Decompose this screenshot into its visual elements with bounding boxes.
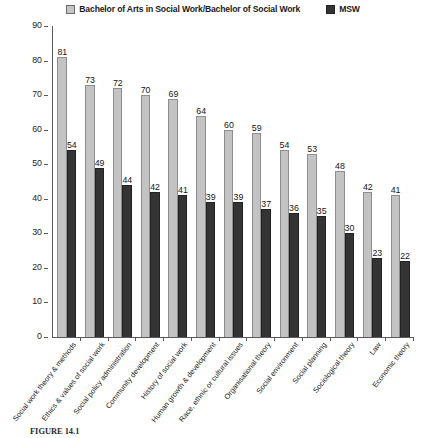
y-axis-tick-label: 90 (32, 20, 42, 31)
bar-msw: 49 (95, 168, 105, 337)
y-axis-tick-mark (44, 199, 48, 200)
bar-bsw: 70 (141, 95, 151, 337)
bar-bsw: 42 (363, 192, 373, 337)
y-axis-tick: 80 (4, 61, 48, 62)
legend-entry-bsw: Bachelor of Arts in Social Work/Bachelor… (66, 4, 300, 14)
y-axis-tick-label: 10 (32, 296, 42, 307)
y-axis-tick: 0 (4, 337, 48, 338)
y-axis-tick-mark (44, 130, 48, 131)
figure-container: Bachelor of Arts in Social Work/Bachelor… (0, 0, 426, 438)
bar-bsw: 73 (85, 85, 95, 337)
bar-series-container: 8154734972447042694164396039593754365335… (53, 26, 414, 337)
y-axis-tick-label: 20 (32, 262, 42, 273)
bar-msw: 39 (206, 202, 216, 337)
bar-value-label: 35 (317, 206, 327, 216)
plot-area: 9080706050403020100 81547349724470426941… (52, 26, 414, 337)
y-axis-tick-mark (44, 302, 48, 303)
bar-msw: 30 (345, 233, 355, 337)
bar-value-label: 69 (168, 89, 178, 99)
chart-legend: Bachelor of Arts in Social Work/Bachelor… (0, 2, 426, 16)
y-axis-tick-mark (44, 26, 48, 27)
bar-value-label: 64 (196, 106, 206, 116)
bar-value-label: 41 (178, 185, 188, 195)
bar-value-label: 39 (234, 192, 244, 202)
bar-msw: 42 (150, 192, 160, 337)
bar-value-label: 49 (95, 158, 105, 168)
bar-bsw: 64 (196, 116, 206, 337)
bar-value-label: 42 (150, 182, 160, 192)
bar-bsw: 54 (280, 150, 290, 337)
bar-value-label: 54 (280, 140, 290, 150)
bar-msw: 54 (67, 150, 77, 337)
y-axis-tick: 10 (4, 302, 48, 303)
bar-bsw: 59 (252, 133, 262, 337)
bar-msw: 23 (372, 258, 382, 337)
y-axis-tick-label: 70 (32, 89, 42, 100)
bar-group: 7042 (136, 26, 164, 337)
x-axis-category-label: Law (369, 341, 384, 357)
bar-group: 5436 (275, 26, 303, 337)
bar-bsw: 48 (335, 171, 345, 337)
bar-bsw: 60 (224, 130, 234, 337)
legend-swatch-msw-icon (326, 5, 335, 14)
y-axis-tick-mark (44, 268, 48, 269)
bar-value-label: 37 (261, 199, 271, 209)
bar-msw: 35 (317, 216, 327, 337)
bar-group: 6941 (164, 26, 192, 337)
legend-label-bsw: Bachelor of Arts in Social Work/Bachelor… (79, 4, 300, 14)
y-axis-tick-mark (44, 95, 48, 96)
bar-msw: 37 (261, 209, 271, 337)
bar-value-label: 44 (122, 175, 132, 185)
bar-group: 7244 (109, 26, 137, 337)
y-axis-tick-label: 60 (32, 124, 42, 135)
y-axis-tick-mark (44, 233, 48, 234)
y-axis-tick-mark (44, 337, 48, 338)
bar-group: 8154 (53, 26, 81, 337)
bar-group: 6039 (220, 26, 248, 337)
bar-group: 6439 (192, 26, 220, 337)
y-axis-tick: 40 (4, 199, 48, 200)
y-axis-tick: 30 (4, 233, 48, 234)
bar-value-label: 54 (67, 140, 77, 150)
bar-group: 5335 (303, 26, 331, 337)
y-axis-tick-label: 40 (32, 193, 42, 204)
bar-value-label: 42 (363, 182, 373, 192)
legend-swatch-bsw-icon (66, 5, 75, 14)
legend-entry-msw: MSW (326, 4, 360, 14)
y-axis-tick-mark (44, 61, 48, 62)
bar-value-label: 36 (289, 203, 299, 213)
bar-value-label: 22 (400, 251, 410, 261)
figure-caption: FIGURE 14.1 (30, 427, 420, 438)
bar-value-label: 81 (57, 47, 67, 57)
figure-caption-prefix: FIGURE 14.1 (30, 427, 79, 436)
bar-value-label: 39 (206, 192, 216, 202)
bar-group: 4830 (331, 26, 359, 337)
y-axis-tick-mark (44, 164, 48, 165)
bar-value-label: 72 (113, 78, 123, 88)
y-axis-tick-label: 0 (37, 331, 42, 342)
bar-group: 5937 (247, 26, 275, 337)
bar-bsw: 72 (113, 88, 123, 337)
bar-group: 4122 (386, 26, 414, 337)
bar-msw: 22 (400, 261, 410, 337)
y-axis-tick: 90 (4, 26, 48, 27)
y-axis-tick: 20 (4, 268, 48, 269)
bar-value-label: 30 (345, 223, 355, 233)
bar-value-label: 60 (224, 120, 234, 130)
bar-value-label: 70 (141, 85, 151, 95)
bar-msw: 39 (233, 202, 243, 337)
bar-msw: 36 (289, 213, 299, 337)
bar-group: 7349 (81, 26, 109, 337)
x-axis-labels: Social work theory & methodsEthics & val… (52, 337, 426, 423)
bar-msw: 44 (122, 185, 132, 337)
bar-bsw: 69 (168, 99, 178, 337)
bar-bsw: 53 (307, 154, 317, 337)
bar-value-label: 59 (252, 123, 262, 133)
bar-msw: 41 (178, 195, 188, 337)
y-axis-tick-label: 50 (32, 158, 42, 169)
y-axis-tick: 60 (4, 130, 48, 131)
bar-value-label: 48 (335, 161, 345, 171)
bar-bsw: 41 (391, 195, 401, 337)
legend-label-msw: MSW (339, 4, 360, 14)
bar-value-label: 41 (391, 185, 401, 195)
